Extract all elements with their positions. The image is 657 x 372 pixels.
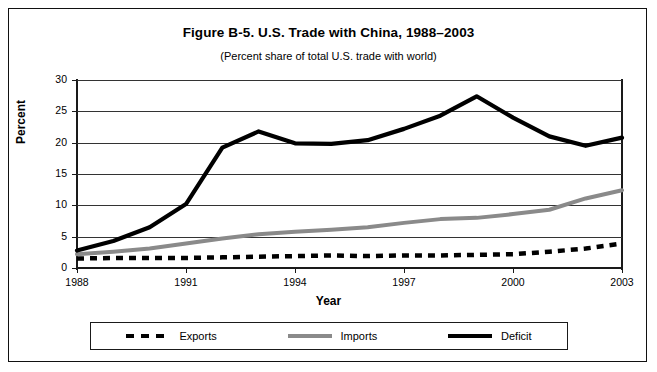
legend-item-exports[interactable]: Exports xyxy=(126,330,216,342)
x-tick-label: 1988 xyxy=(52,276,102,288)
y-tick-label: 15 xyxy=(43,167,67,179)
figure-container: Figure B-5. U.S. Trade with China, 1988–… xyxy=(0,0,657,372)
legend-item-imports[interactable]: Imports xyxy=(288,330,378,342)
page-title: Figure B-5. U.S. Trade with China, 1988–… xyxy=(0,25,657,40)
y-axis-label: Percent xyxy=(14,100,28,144)
legend-label: Deficit xyxy=(501,330,532,342)
x-tick-label: 1991 xyxy=(161,276,211,288)
legend-label: Exports xyxy=(179,330,216,342)
x-tick-mark xyxy=(622,268,623,273)
x-axis-label: Year xyxy=(0,294,657,308)
chart-legend: ExportsImportsDeficit xyxy=(90,322,568,350)
legend-swatch-icon xyxy=(126,334,170,339)
plot-area: 051015202530 198819911994199720002003 xyxy=(77,80,622,268)
y-tick-label: 10 xyxy=(43,198,67,210)
data-series-layer xyxy=(77,80,622,268)
x-tick-label: 2000 xyxy=(488,276,538,288)
y-tick-label: 0 xyxy=(43,261,67,273)
x-tick-label: 1994 xyxy=(270,276,320,288)
legend-item-deficit[interactable]: Deficit xyxy=(448,330,532,342)
x-tick-mark xyxy=(295,268,296,273)
legend-label: Imports xyxy=(341,330,378,342)
x-tick-mark xyxy=(77,268,78,273)
x-tick-label: 2003 xyxy=(597,276,647,288)
legend-swatch-icon xyxy=(288,334,332,339)
figure-subtitle: (Percent share of total U.S. trade with … xyxy=(0,50,657,62)
x-tick-mark xyxy=(513,268,514,273)
y-tick-label: 20 xyxy=(43,136,67,148)
x-tick-mark xyxy=(186,268,187,273)
x-tick-mark xyxy=(404,268,405,273)
legend-swatch-icon xyxy=(448,334,492,339)
y-tick-label: 25 xyxy=(43,104,67,116)
y-tick-label: 5 xyxy=(43,230,67,242)
x-tick-label: 1997 xyxy=(379,276,429,288)
y-tick-label: 30 xyxy=(43,73,67,85)
